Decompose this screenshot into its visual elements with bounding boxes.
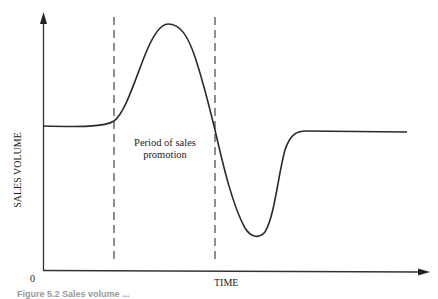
- y-axis-arrow-icon: [40, 12, 47, 24]
- sales-volume-curve: [43, 24, 407, 236]
- origin-label: 0: [30, 273, 35, 284]
- promotion-annotation-line2: promotion: [143, 149, 187, 160]
- x-axis-arrow-icon: [418, 269, 430, 276]
- promotion-annotation-line1: Period of sales: [134, 137, 196, 148]
- figure-caption: Figure 5.2 Sales volume ...: [17, 289, 130, 299]
- y-axis-label: SALES VOLUME: [12, 132, 23, 208]
- x-axis: [43, 271, 420, 273]
- x-axis-label: TIME: [214, 277, 238, 288]
